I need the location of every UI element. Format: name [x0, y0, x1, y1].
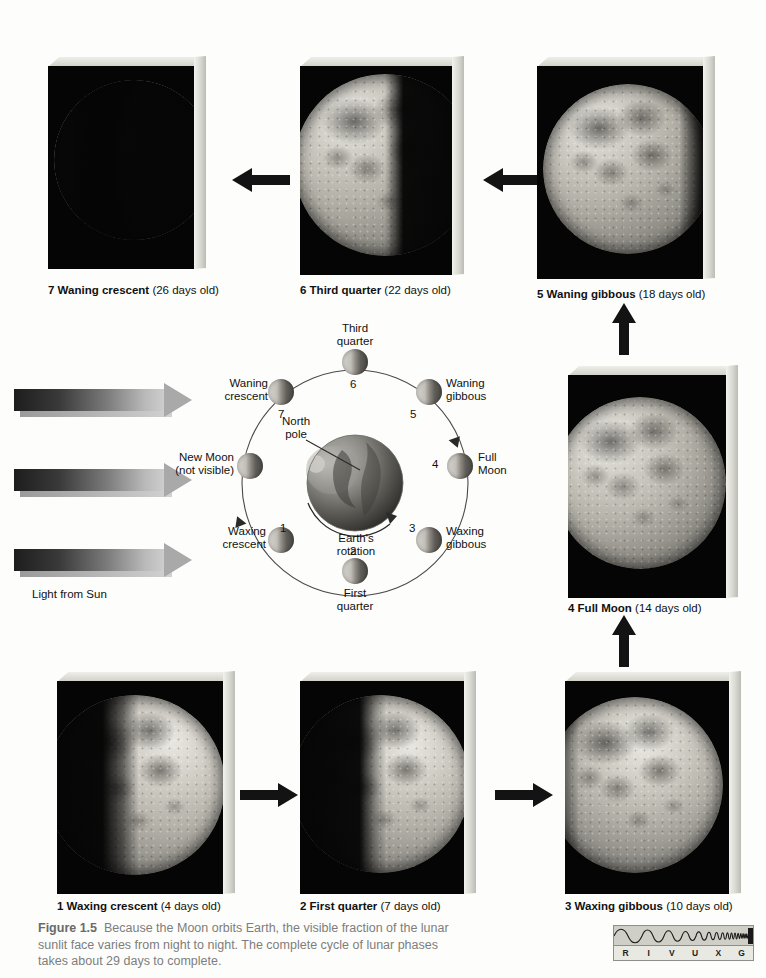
- orbit-moon-7[interactable]: [268, 379, 294, 405]
- moon-disc-waxing-crescent: [57, 695, 223, 875]
- orbit-label-waning-gibbous: Waning gibbous: [446, 377, 518, 403]
- photo-face: [57, 681, 223, 894]
- photo-panel-waning-crescent[interactable]: [48, 57, 206, 269]
- spectrum-letter-g: G: [730, 946, 753, 960]
- earth-rotation-line1: Earth's: [324, 532, 388, 545]
- orbit-label-new-moon: New Moon (not visible): [142, 451, 234, 477]
- caption-phase: 2 First quarter: [300, 900, 377, 912]
- photo-panel-waxing-crescent[interactable]: [57, 672, 235, 894]
- arrow-right-waxing-crescent-to-first: [240, 782, 298, 808]
- caption-age: (14 days old): [632, 602, 702, 614]
- orbit-moon-3[interactable]: [416, 527, 442, 553]
- orbit-moon-2[interactable]: [342, 558, 368, 584]
- arrow-left-third-to-waning-crescent: [232, 167, 290, 193]
- earth-rotation-line2: rotation: [324, 545, 388, 558]
- orbit-label-line2: quarter: [322, 335, 388, 348]
- orbit-moon-6[interactable]: [342, 349, 368, 375]
- north-pole-label: North pole: [268, 415, 324, 441]
- photo-slab: [565, 672, 741, 894]
- figure-stage: 7 Waning crescent (26 days old) 6 Third …: [0, 0, 766, 978]
- caption-waning-gibbous: 5 Waning gibbous (18 days old): [537, 288, 705, 300]
- orbit-label-line1: New Moon: [142, 451, 234, 464]
- orbit-label-line1: Full: [478, 451, 528, 464]
- slab-side-edge: [729, 671, 741, 894]
- arrow-up-full-to-waning-gibbous: [611, 303, 637, 355]
- orbit-label-line2: Moon: [478, 464, 528, 477]
- caption-age: (4 days old): [158, 900, 221, 912]
- photo-slab: [48, 57, 206, 269]
- orbit-moon-5[interactable]: [416, 379, 442, 405]
- caption-waxing-crescent: 1 Waxing crescent (4 days old): [57, 900, 221, 912]
- orbit-label-line2: gibbous: [446, 538, 516, 551]
- photo-slab: [537, 57, 715, 279]
- moon-disc-waxing-gibbous: [565, 697, 723, 873]
- arrow-up-waxing-gibbous-to-full: [611, 615, 637, 667]
- caption-age: (7 days old): [377, 900, 440, 912]
- moon-disc-first-quarter: [300, 695, 464, 873]
- orbit-label-line1: Waning: [194, 377, 268, 390]
- slab-side-edge: [726, 365, 738, 598]
- orbit-diagram: 6 5 4 3 2 1 7 Third quarter Waning gibbo…: [190, 320, 520, 650]
- caption-phase: 7 Waning crescent: [48, 284, 149, 296]
- photo-panel-full-moon[interactable]: [568, 366, 738, 598]
- orbit-label-line2: crescent: [196, 538, 266, 551]
- slab-side-edge: [703, 56, 715, 279]
- orbit-label-line1: Waxing: [446, 525, 516, 538]
- orbit-label-waxing-crescent: Waxing crescent: [196, 525, 266, 551]
- moon-disc-waning-gibbous: [543, 84, 703, 254]
- spectrum-letter-v: V: [660, 946, 683, 960]
- slab-side-edge: [452, 56, 464, 275]
- photo-panel-waning-gibbous[interactable]: [537, 57, 715, 279]
- caption-phase: 6 Third quarter: [300, 284, 381, 296]
- moon-disc-third-quarter: [300, 74, 452, 256]
- photo-slab: [300, 672, 476, 894]
- rivuxg-spectrum-badge: R I V U X G: [613, 925, 754, 961]
- orbit-moon-4[interactable]: [447, 453, 473, 479]
- orbit-label-line2: (not visible): [142, 464, 234, 477]
- caption-age: (18 days old): [636, 288, 706, 300]
- spectrum-letter-i: I: [637, 946, 660, 960]
- photo-panel-third-quarter[interactable]: [300, 57, 464, 275]
- moon-disc-waning-crescent: [54, 80, 194, 240]
- orbit-label-third-quarter: Third quarter: [322, 322, 388, 348]
- figure-number: Figure 1.5: [38, 921, 97, 935]
- spectrum-letters: R I V U X G: [614, 945, 753, 960]
- orbit-label-line1: First: [323, 587, 387, 600]
- photo-face: [48, 66, 194, 269]
- photo-face: [537, 66, 703, 279]
- photo-slab: [300, 57, 464, 275]
- photo-panel-first-quarter[interactable]: [300, 672, 476, 894]
- photo-panel-waxing-gibbous[interactable]: [565, 672, 741, 894]
- caption-full-moon: 4 Full Moon (14 days old): [568, 602, 702, 614]
- sunlight-label: Light from Sun: [32, 588, 107, 600]
- orbit-label-line2: gibbous: [446, 390, 518, 403]
- photo-slab: [57, 672, 235, 894]
- photo-face: [300, 66, 452, 275]
- orbit-label-first-quarter: First quarter: [323, 587, 387, 613]
- north-pole-line2: pole: [268, 428, 324, 441]
- photo-face: [568, 375, 726, 598]
- caption-first-quarter: 2 First quarter (7 days old): [300, 900, 441, 912]
- slab-side-edge: [194, 56, 206, 269]
- orbit-label-waxing-gibbous: Waxing gibbous: [446, 525, 516, 551]
- orbit-label-waning-crescent: Waning crescent: [194, 377, 268, 403]
- caption-waning-crescent: 7 Waning crescent (26 days old): [48, 284, 219, 296]
- moon-disc-full: [568, 397, 726, 569]
- orbit-moon-new[interactable]: [237, 453, 263, 479]
- arrow-left-waning-gibbous-to-third: [483, 167, 541, 193]
- figure-caption-text: Because the Moon orbits Earth, the visib…: [38, 921, 449, 968]
- spectrum-wave-icon: [614, 926, 753, 945]
- caption-waxing-gibbous: 3 Waxing gibbous (10 days old): [565, 900, 733, 912]
- orbit-label-line1: Waxing: [196, 525, 266, 538]
- photo-slab: [568, 366, 738, 598]
- arrow-right-first-to-waxing-gibbous: [495, 782, 553, 808]
- caption-phase: 5 Waning gibbous: [537, 288, 636, 300]
- caption-phase: 4 Full Moon: [568, 602, 632, 614]
- earth-rotation-label: Earth's rotation: [324, 532, 388, 558]
- orbit-number-4: 4: [432, 458, 438, 470]
- orbit-number-1: 1: [280, 522, 286, 534]
- caption-third-quarter: 6 Third quarter (22 days old): [300, 284, 451, 296]
- orbit-number-5: 5: [410, 408, 416, 420]
- caption-phase: 1 Waxing crescent: [57, 900, 158, 912]
- orbit-number-6: 6: [350, 378, 356, 390]
